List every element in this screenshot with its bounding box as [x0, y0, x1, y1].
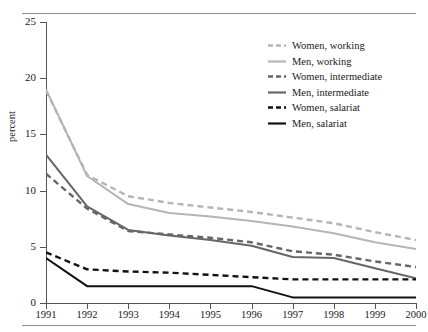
legend-swatch-icon	[268, 40, 286, 51]
legend-swatch-icon	[268, 71, 286, 82]
y-tick-label: 25	[14, 15, 36, 27]
y-tick-label: 5	[14, 240, 36, 252]
y-tick-label: 15	[14, 127, 36, 139]
series-line	[46, 174, 416, 267]
x-tick-label: 2000	[396, 309, 428, 320]
y-tick-label: 0	[14, 296, 36, 308]
chart-legend: Women, workingMen, workingWomen, interme…	[268, 38, 420, 131]
legend-item: Men, intermediate	[268, 85, 420, 101]
y-tick-label: 20	[14, 71, 36, 83]
legend-item-label: Women, working	[292, 40, 365, 51]
legend-item-label: Men, salariat	[292, 118, 347, 129]
legend-item-label: Men, intermediate	[292, 87, 369, 98]
x-tick-label: 1999	[355, 309, 395, 320]
x-tick-label: 1991	[26, 309, 66, 320]
x-axis-line	[46, 303, 416, 304]
x-tick-label: 1992	[67, 309, 107, 320]
bottom-rule	[22, 325, 416, 326]
x-tick-label: 1995	[190, 309, 230, 320]
legend-swatch-icon	[268, 102, 286, 113]
y-tick-label: 10	[14, 184, 36, 196]
x-tick-label: 1996	[232, 309, 272, 320]
legend-item-label: Men, working	[292, 56, 352, 67]
legend-swatch-icon	[268, 87, 286, 98]
top-rule	[22, 13, 416, 14]
x-tick-label: 1997	[273, 309, 313, 320]
series-line	[46, 252, 416, 279]
x-tick-label: 1998	[314, 309, 354, 320]
legend-swatch-icon	[268, 56, 286, 67]
legend-swatch-icon	[268, 118, 286, 129]
chart-figure: percent 0510152025 199119921993199419951…	[0, 0, 428, 332]
legend-item: Men, working	[268, 54, 420, 70]
x-tick-label: 1994	[149, 309, 189, 320]
legend-item-label: Women, salariat	[292, 102, 360, 113]
legend-item: Women, salariat	[268, 100, 420, 116]
legend-item: Women, intermediate	[268, 69, 420, 85]
legend-item-label: Women, intermediate	[292, 71, 382, 82]
x-tick-label: 1993	[108, 309, 148, 320]
legend-item: Men, salariat	[268, 116, 420, 132]
legend-item: Women, working	[268, 38, 420, 54]
